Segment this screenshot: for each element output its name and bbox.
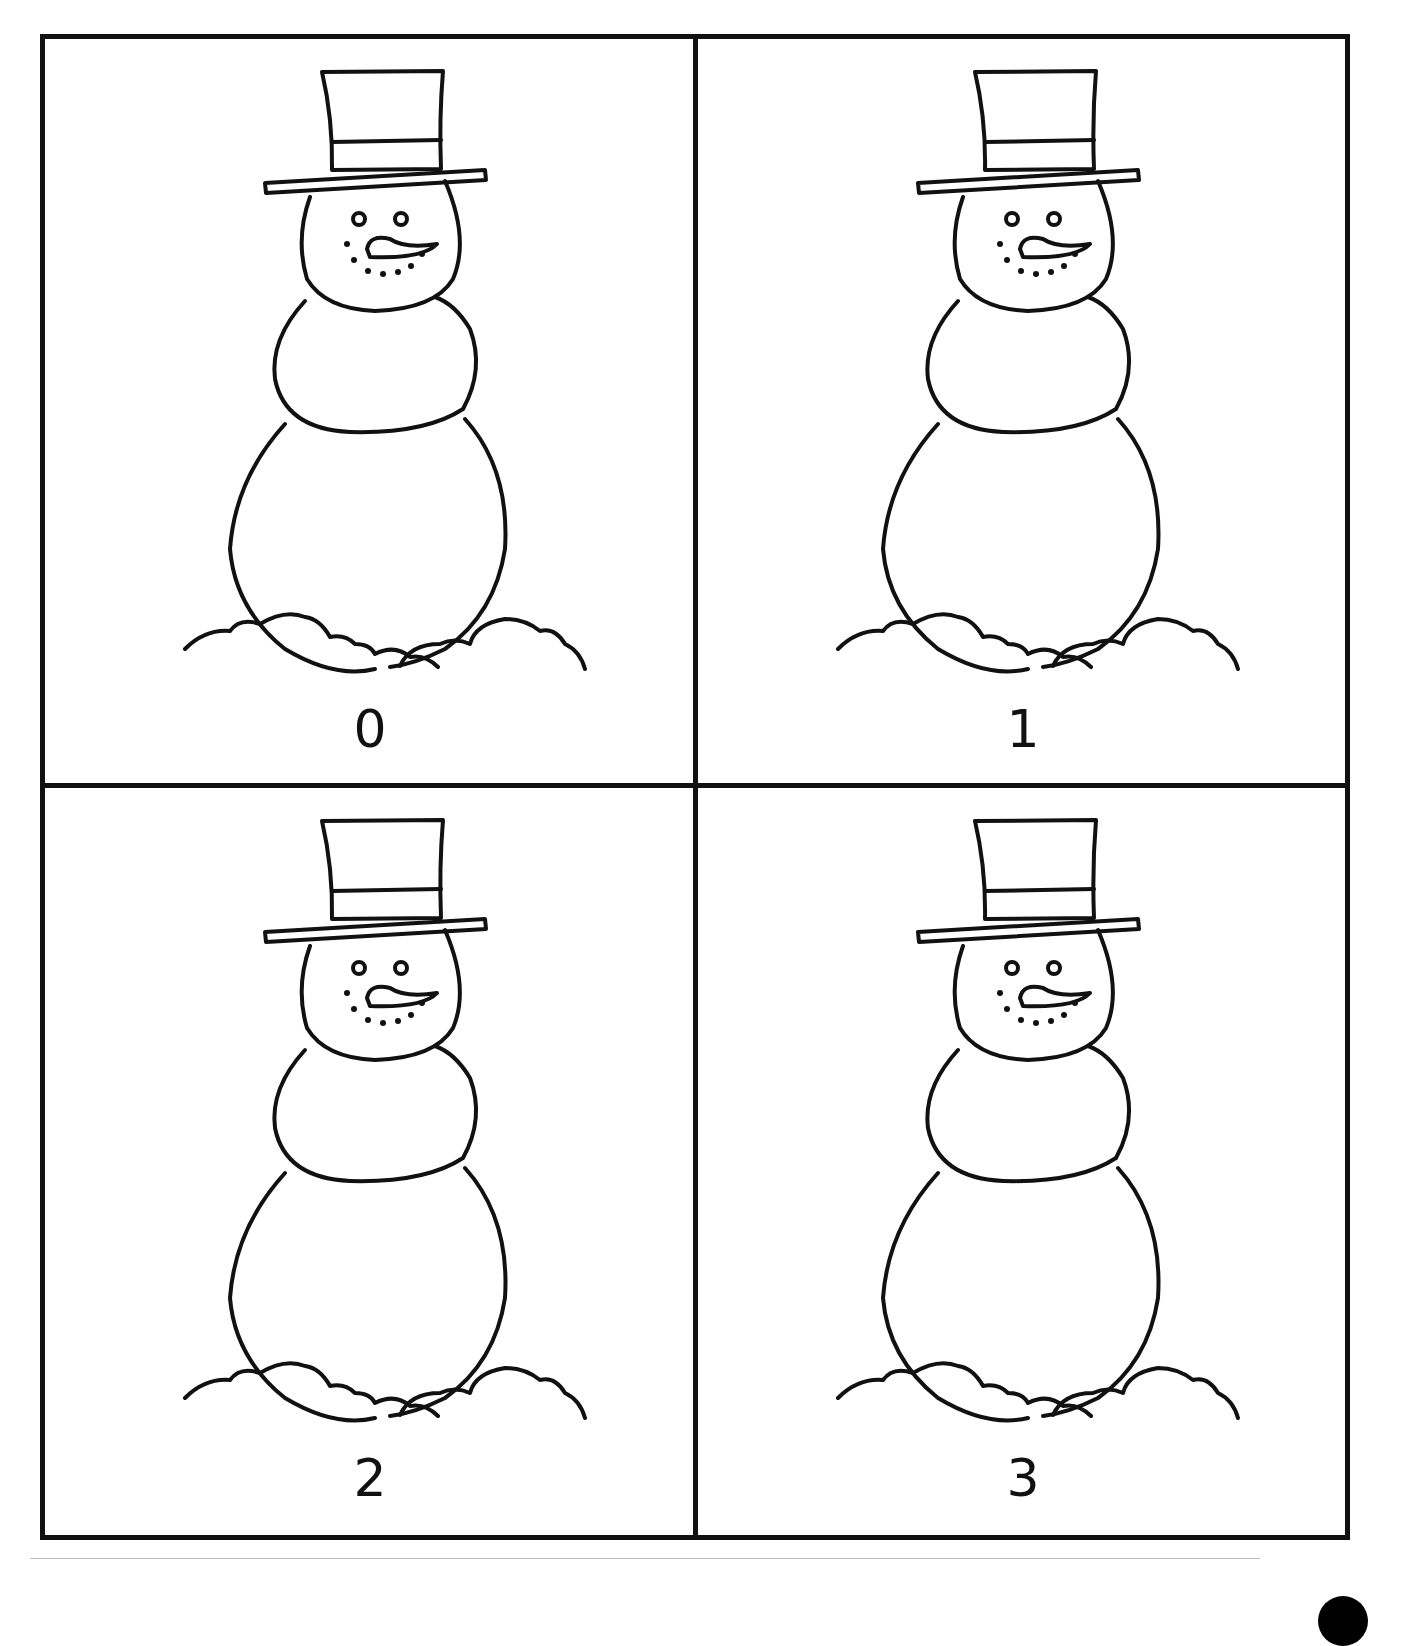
snowman-icon <box>45 788 695 1533</box>
page-marker-dot <box>1318 1596 1368 1646</box>
snowman-icon <box>45 39 695 784</box>
card-number: 1 <box>698 699 1348 759</box>
card-number: 0 <box>45 699 695 759</box>
page-footer-rule <box>30 1558 1260 1559</box>
card-1: 1 <box>698 39 1348 784</box>
card-2: 2 <box>45 788 695 1533</box>
card-0: 0 <box>45 39 695 784</box>
card-number: 2 <box>45 1448 695 1508</box>
card-number: 3 <box>698 1448 1348 1508</box>
snowman-icon <box>698 788 1348 1533</box>
snowman-icon <box>698 39 1348 784</box>
card-3: 3 <box>698 788 1348 1533</box>
